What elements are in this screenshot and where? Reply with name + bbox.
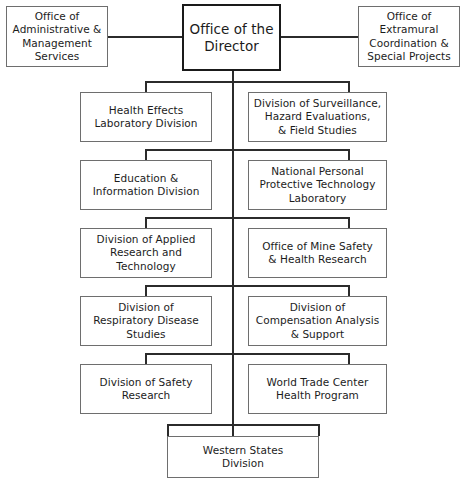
node-label: Western States Division	[168, 444, 318, 471]
connector-bottom-bus	[167, 424, 319, 426]
node-label: Division of Respiratory Disease Studies	[81, 301, 211, 342]
node-western-states-division[interactable]: Western States Division	[167, 436, 319, 478]
node-label: Division of Compensation Analysis & Supp…	[249, 301, 386, 342]
org-chart: Office of Administrative & Management Se…	[0, 0, 466, 481]
node-division-of-applied-research-and-technology[interactable]: Division of Applied Research and Technol…	[80, 228, 212, 278]
node-label: Office of the Director	[184, 21, 279, 55]
node-office-of-administrative-and-management-services[interactable]: Office of Administrative & Management Se…	[6, 6, 108, 67]
connector-main-spine	[232, 70, 234, 436]
node-division-of-respiratory-disease-studies[interactable]: Division of Respiratory Disease Studies	[80, 296, 212, 346]
node-division-of-compensation-analysis-and-support[interactable]: Division of Compensation Analysis & Supp…	[248, 296, 387, 346]
node-label: Office of Administrative & Management Se…	[7, 10, 107, 64]
node-label: Health Effects Laboratory Division	[81, 104, 211, 131]
connector-director-to-admin-services	[108, 36, 183, 38]
node-national-personal-protective-technology-laboratory[interactable]: National Personal Protective Technology …	[248, 160, 387, 210]
node-label: National Personal Protective Technology …	[249, 165, 386, 206]
connector-director-to-extramural	[280, 36, 359, 38]
node-label: Division of Safety Research	[81, 376, 211, 403]
node-division-of-surveillance-hazard-evaluations-and-field-studies[interactable]: Division of Surveillance, Hazard Evaluat…	[248, 92, 387, 142]
connector-row-3-bus	[145, 217, 349, 219]
node-label: Office of Extramural Coordination & Spec…	[359, 10, 459, 64]
connector-row-5-bus	[145, 353, 349, 355]
node-division-of-safety-research[interactable]: Division of Safety Research	[80, 364, 212, 414]
node-label: World Trade Center Health Program	[249, 376, 386, 403]
node-office-of-the-director[interactable]: Office of the Director	[182, 4, 281, 71]
node-world-trade-center-health-program[interactable]: World Trade Center Health Program	[248, 364, 387, 414]
connector-bottom-right-drop	[318, 424, 320, 436]
node-education-and-information-division[interactable]: Education & Information Division	[80, 160, 212, 210]
node-label: Division of Applied Research and Technol…	[81, 233, 211, 274]
connector-row-1-bus	[145, 81, 349, 83]
node-office-of-extramural-coordination-and-special-projects[interactable]: Office of Extramural Coordination & Spec…	[358, 6, 460, 67]
connector-row-2-bus	[145, 149, 349, 151]
node-office-of-mine-safety-and-health-research[interactable]: Office of Mine Safety & Health Research	[248, 228, 387, 278]
connector-bottom-left-drop	[167, 424, 169, 436]
node-health-effects-laboratory-division[interactable]: Health Effects Laboratory Division	[80, 92, 212, 142]
connector-row-4-bus	[145, 285, 349, 287]
node-label: Office of Mine Safety & Health Research	[249, 240, 386, 267]
node-label: Division of Surveillance, Hazard Evaluat…	[249, 97, 386, 138]
node-label: Education & Information Division	[81, 172, 211, 199]
